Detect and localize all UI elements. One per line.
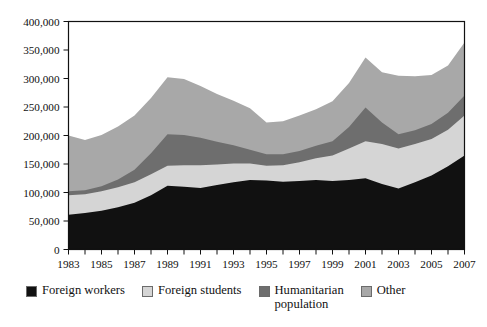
x-axis-tick-label: 1997 (288, 258, 311, 270)
legend-swatch-icon (361, 286, 372, 297)
x-axis-tick-label: 1991 (189, 258, 211, 270)
x-axis-tick-label: 1993 (222, 258, 245, 270)
plot-areas (69, 43, 465, 250)
legend-label: Other (377, 283, 406, 297)
legend-label: Foreign workers (42, 283, 125, 297)
chart-figure: 050,000100,000150,000200,000250,000300,0… (0, 0, 487, 327)
legend-item[interactable]: Foreign students (142, 283, 242, 297)
y-axis-tick-label: 350,000 (23, 44, 60, 56)
x-axis-tick-label: 1987 (123, 258, 146, 270)
x-axis-tick-label: 2003 (387, 258, 410, 270)
chart-legend: Foreign workersForeign studentsHumanitar… (0, 283, 487, 327)
legend-swatch-icon (142, 286, 153, 297)
legend-item[interactable]: Other (361, 283, 406, 297)
y-axis-tick-labels: 050,000100,000150,000200,000250,000300,0… (23, 16, 60, 256)
legend-swatch-icon (26, 286, 37, 297)
x-axis-tick-label: 2007 (453, 258, 476, 270)
x-axis-tick-label: 1995 (255, 258, 278, 270)
x-axis-tick-label: 2005 (420, 258, 443, 270)
x-axis-tick-label: 1989 (156, 258, 179, 270)
y-axis-tick-label: 400,000 (23, 16, 60, 28)
legend-item[interactable]: Foreign workers (26, 283, 125, 297)
y-axis-ticks (64, 22, 69, 250)
x-axis-tick-label: 2001 (354, 258, 376, 270)
y-axis-tick-label: 100,000 (23, 187, 60, 199)
legend-label: Humanitarian population (275, 283, 344, 311)
x-axis-tick-label: 1983 (57, 258, 80, 270)
x-axis-tick-label: 1985 (90, 258, 113, 270)
y-axis-tick-label: 0 (54, 244, 60, 256)
y-axis-tick-label: 250,000 (23, 101, 60, 113)
legend-swatch-icon (259, 286, 270, 297)
legend-item[interactable]: Humanitarian population (259, 283, 344, 311)
x-axis-ticks (69, 250, 465, 255)
y-axis-tick-label: 300,000 (23, 73, 60, 85)
x-axis-tick-labels: 1983198519871989199119931995199719992001… (57, 258, 476, 270)
stacked-area-chart: 050,000100,000150,000200,000250,000300,0… (0, 0, 487, 284)
y-axis-tick-label: 150,000 (23, 158, 60, 170)
y-axis-tick-label: 200,000 (23, 130, 60, 142)
legend-label: Foreign students (158, 283, 242, 297)
x-axis-tick-label: 1999 (321, 258, 344, 270)
y-axis-tick-label: 50,000 (29, 215, 60, 227)
